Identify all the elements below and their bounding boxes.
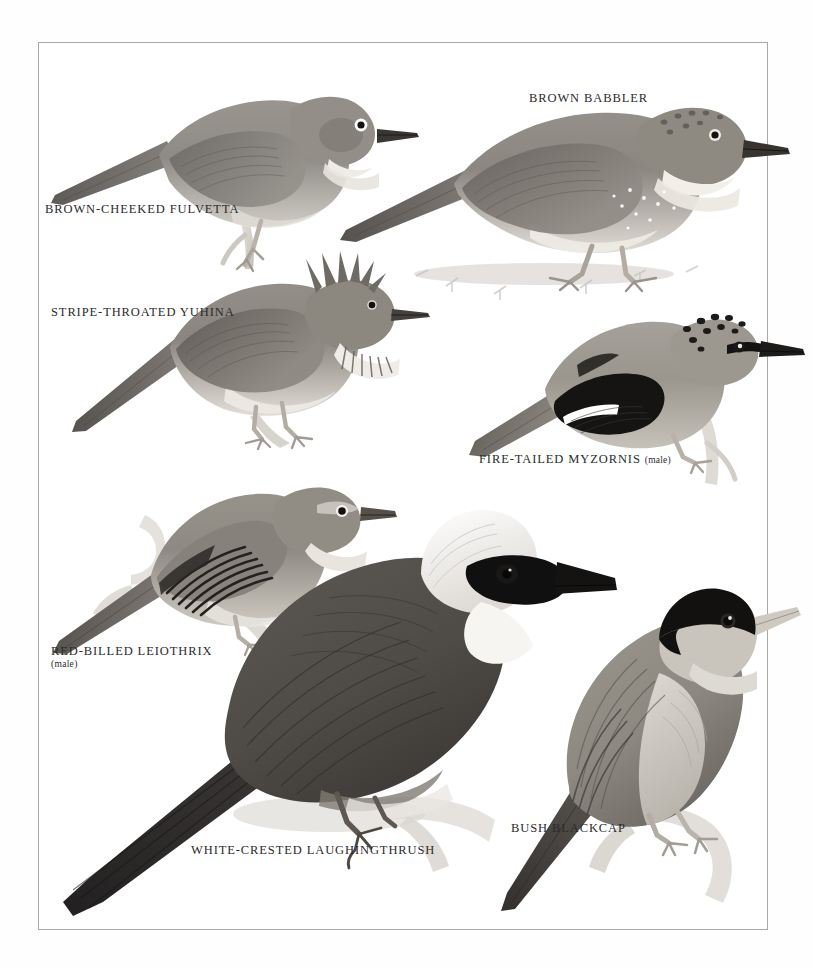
label-white-crested-laughingthrush: WHITE-CRESTED LAUGHINGTHRUSH (191, 843, 435, 858)
bill (755, 607, 801, 635)
label-stripe-throated-yuhina: STRIPE-THROATED YUHINA (51, 305, 235, 320)
species-name: BROWN-CHEEKED FULVETTA (45, 202, 239, 216)
eye (738, 344, 742, 348)
bill (759, 341, 805, 357)
bird-stripe-throated-yuhina (54, 243, 454, 458)
species-name: WHITE-CRESTED LAUGHINGTHRUSH (191, 843, 435, 857)
label-fire-tailed-myzornis: FIRE-TAILED MYZORNIS (male) (479, 452, 671, 467)
tail (51, 141, 177, 205)
label-brown-babbler: BROWN BABBLER (529, 91, 648, 106)
species-name: FIRE-TAILED MYZORNIS (479, 452, 641, 466)
species-name: BUSH BLACKCAP (511, 821, 626, 835)
bird-bush-blackcap (499, 563, 789, 923)
eye (711, 131, 718, 138)
plate-frame: BROWN-CHEEKED FULVETTA (38, 42, 768, 930)
illustration-plate: BROWN-CHEEKED FULVETTA (0, 0, 813, 969)
label-brown-cheeked-fulvetta: BROWN-CHEEKED FULVETTA (45, 202, 239, 217)
eye (369, 302, 376, 309)
label-bush-blackcap: BUSH BLACKCAP (511, 821, 626, 836)
species-sex: (male) (645, 455, 671, 465)
species-name: BROWN BABBLER (529, 91, 648, 105)
species-name: STRIPE-THROATED YUHINA (51, 305, 235, 319)
bird-white-crested-laughingthrush (29, 498, 519, 928)
